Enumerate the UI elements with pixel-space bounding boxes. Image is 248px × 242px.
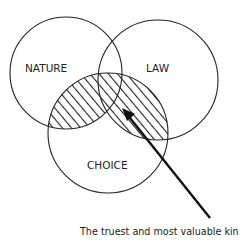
law-label: LAW [146, 62, 170, 74]
venn-diagram: NATURE LAW CHOICE The truest and most va… [0, 0, 248, 242]
callout-caption: The truest and most valuable kin [79, 226, 239, 237]
choice-label: CHOICE [87, 159, 128, 171]
nature-label: NATURE [25, 62, 67, 74]
